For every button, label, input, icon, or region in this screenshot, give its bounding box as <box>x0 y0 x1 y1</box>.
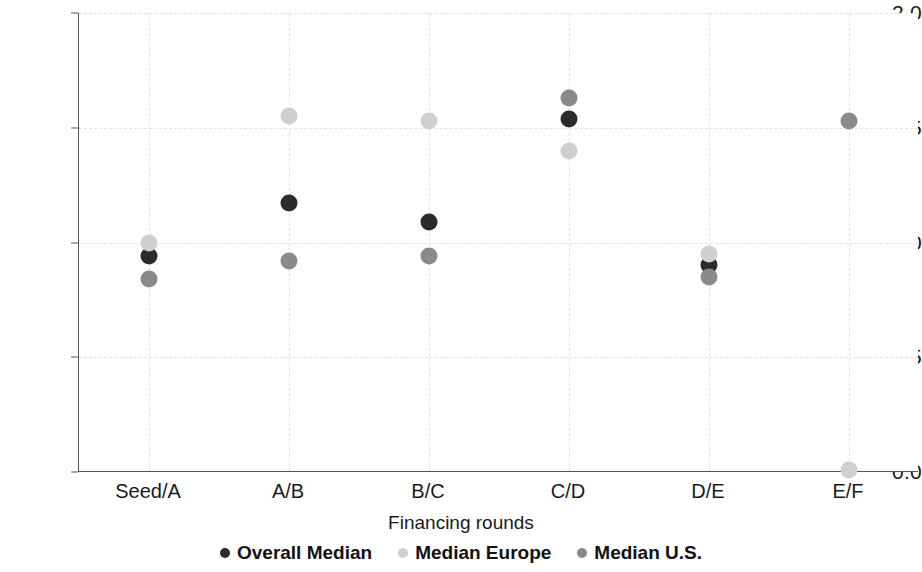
legend-marker-icon <box>220 548 230 558</box>
data-point <box>281 195 298 212</box>
gridline-horizontal <box>79 128 918 129</box>
x-axis-tick-label: E/F <box>832 480 863 503</box>
x-axis-tick-label: D/E <box>691 480 724 503</box>
legend-item-label: Median Europe <box>415 542 551 564</box>
plot-area <box>78 13 918 472</box>
data-point <box>141 271 158 288</box>
gridline-horizontal <box>79 243 918 244</box>
gridline-vertical <box>709 13 710 471</box>
y-axis-title-container: Median time difference (in years) <box>0 13 34 472</box>
legend-item[interactable]: Median U.S. <box>577 542 702 564</box>
legend-item[interactable]: Median Europe <box>398 542 551 564</box>
data-point <box>421 213 438 230</box>
y-axis-tick-mark <box>71 472 78 473</box>
data-point <box>141 234 158 251</box>
legend-marker-icon <box>398 548 408 558</box>
x-axis-tick-label: Seed/A <box>115 480 181 503</box>
y-axis-tick-mark <box>71 13 78 14</box>
data-point <box>281 252 298 269</box>
data-point <box>561 110 578 127</box>
data-point <box>701 268 718 285</box>
chart-legend: Overall MedianMedian EuropeMedian U.S. <box>0 542 922 564</box>
gridline-horizontal <box>79 13 918 14</box>
y-axis-tick-mark <box>71 127 78 128</box>
gridline-vertical <box>849 13 850 471</box>
data-point <box>841 112 858 129</box>
gridline-vertical <box>289 13 290 471</box>
gridline-vertical <box>569 13 570 471</box>
legend-marker-icon <box>577 548 587 558</box>
gridline-horizontal <box>79 357 918 358</box>
x-axis-tick-label: A/B <box>272 480 304 503</box>
gridline-vertical <box>429 13 430 471</box>
legend-item-label: Overall Median <box>237 542 372 564</box>
data-point <box>701 245 718 262</box>
scatter-chart: Median time difference (in years) 0.00.5… <box>0 0 922 572</box>
legend-item[interactable]: Overall Median <box>220 542 372 564</box>
data-point <box>421 112 438 129</box>
y-axis-tick-mark <box>71 242 78 243</box>
y-axis-tick-mark <box>71 357 78 358</box>
data-point <box>841 461 858 478</box>
data-point <box>561 89 578 106</box>
data-point <box>561 142 578 159</box>
data-point <box>281 108 298 125</box>
x-axis-tick-label: C/D <box>551 480 585 503</box>
x-axis-tick-label: B/C <box>411 480 444 503</box>
data-point <box>421 248 438 265</box>
x-axis-title: Financing rounds <box>0 512 922 534</box>
legend-item-label: Median U.S. <box>594 542 702 564</box>
